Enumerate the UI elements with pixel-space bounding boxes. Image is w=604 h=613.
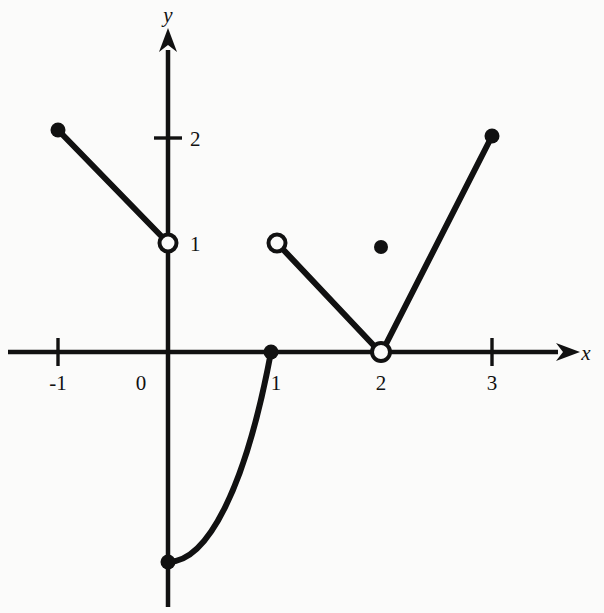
x-axis-label: x bbox=[580, 341, 591, 365]
x-axis-arrowhead bbox=[556, 343, 580, 361]
open-point-segment-start bbox=[269, 235, 286, 252]
x-tick-label-3: 3 bbox=[487, 371, 498, 395]
branch-right-segment bbox=[384, 136, 492, 348]
y-tick-label-2: 2 bbox=[190, 127, 201, 151]
closed-point-left-end bbox=[51, 123, 66, 138]
graph-figure: y x -1 0 1 2 3 1 2 bbox=[0, 0, 604, 613]
closed-point-right-end bbox=[485, 129, 500, 144]
closed-point-curve-start bbox=[161, 555, 176, 570]
y-axis-arrowhead bbox=[159, 28, 177, 52]
x-tick-label-2: 2 bbox=[376, 371, 387, 395]
x-tick-label-0: 0 bbox=[136, 371, 147, 395]
plot-canvas: y x -1 0 1 2 3 1 2 bbox=[0, 0, 604, 613]
x-tick-label-minus-1: -1 bbox=[49, 371, 67, 395]
branch-middle-segment bbox=[277, 243, 378, 350]
isolated-point-at-two bbox=[374, 240, 388, 254]
y-tick-label-1: 1 bbox=[190, 232, 201, 256]
axis-group bbox=[8, 28, 580, 607]
open-point-at-zero bbox=[160, 235, 177, 252]
label-group: y x -1 0 1 2 3 1 2 bbox=[49, 3, 591, 395]
branch-curve bbox=[168, 352, 271, 562]
branch-left-segment bbox=[58, 130, 168, 243]
open-point-at-two bbox=[372, 343, 390, 361]
y-axis-label: y bbox=[161, 3, 173, 27]
closed-point-curve-end bbox=[264, 345, 279, 360]
x-tick-label-1: 1 bbox=[271, 371, 282, 395]
